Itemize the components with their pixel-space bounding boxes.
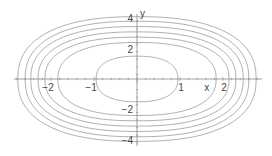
y-tick-label: −4 [122, 135, 134, 146]
y-tick-label: −2 [122, 104, 134, 115]
contour-plot: −2−112−4−224 x y [0, 0, 272, 156]
x-axis-label: x [204, 82, 209, 93]
x-tick-label: −2 [42, 82, 54, 93]
y-axis-label: y [140, 8, 145, 19]
y-tick-label: 4 [127, 13, 133, 24]
y-tick-label: 2 [127, 44, 133, 55]
x-tick-label: −1 [85, 82, 97, 93]
x-tick-label: 2 [221, 82, 227, 93]
x-tick-label: 1 [178, 82, 184, 93]
